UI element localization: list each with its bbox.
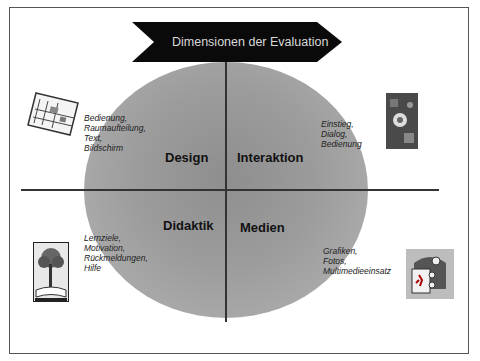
interactive-collage-icon [386,93,418,149]
medien-notes: Grafiken, Fotos, Multimedieeinsatz [323,246,391,276]
design-notes: Bedienung, Raumaufteilung, Text, Bildsch… [84,113,146,153]
tree-book-icon [33,242,69,302]
quadrant-label-interaktion: Interaktion [237,150,303,165]
quadrant-label-didaktik: Didaktik [163,218,214,233]
floorplan-icon [26,91,80,137]
didaktik-notes: Lernziele, Motivation, Rückmeldungen, Hi… [84,233,148,273]
multimedia-icon [406,249,454,299]
interaktion-notes: Einstieg, Dialog, Bedienung [321,119,362,149]
vertical-axis-line [225,62,227,322]
banner-title: Dimensionen der Evaluation [172,35,328,49]
horizontal-axis-line [21,189,439,191]
quadrant-label-medien: Medien [240,220,285,235]
quadrant-label-design: Design [165,150,208,165]
title-banner: Dimensionen der Evaluation [132,22,342,62]
